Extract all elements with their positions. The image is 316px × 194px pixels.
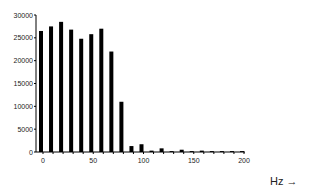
bar	[109, 52, 113, 152]
bar-chart: 0500010000150002000025000300000501001502…	[0, 0, 316, 194]
y-tick-label: 15000	[14, 80, 34, 87]
bar	[89, 34, 93, 152]
bar	[59, 22, 63, 152]
axes: 0500010000150002000025000300000501001502…	[14, 12, 250, 165]
bar	[99, 29, 103, 152]
bar	[69, 30, 73, 152]
x-tick-label: 100	[138, 157, 150, 164]
bar	[140, 144, 144, 152]
x-tick-label: 200	[238, 157, 250, 164]
x-tick-label: 150	[188, 157, 200, 164]
bar	[39, 31, 43, 152]
y-tick-label: 25000	[14, 34, 34, 41]
x-axis-unit-label: Hz →	[270, 175, 298, 187]
y-tick-label: 10000	[14, 103, 34, 110]
bars	[39, 22, 244, 152]
x-tick-label: 50	[89, 157, 97, 164]
y-tick-label: 20000	[14, 57, 34, 64]
bar	[79, 39, 83, 152]
y-tick-label: 5000	[17, 126, 33, 133]
x-tick-label: 0	[41, 157, 45, 164]
bar	[119, 102, 123, 152]
bar	[129, 146, 133, 152]
bar	[49, 26, 53, 152]
bar	[160, 148, 164, 152]
y-tick-label: 0	[29, 149, 33, 156]
y-tick-label: 30000	[14, 12, 34, 19]
